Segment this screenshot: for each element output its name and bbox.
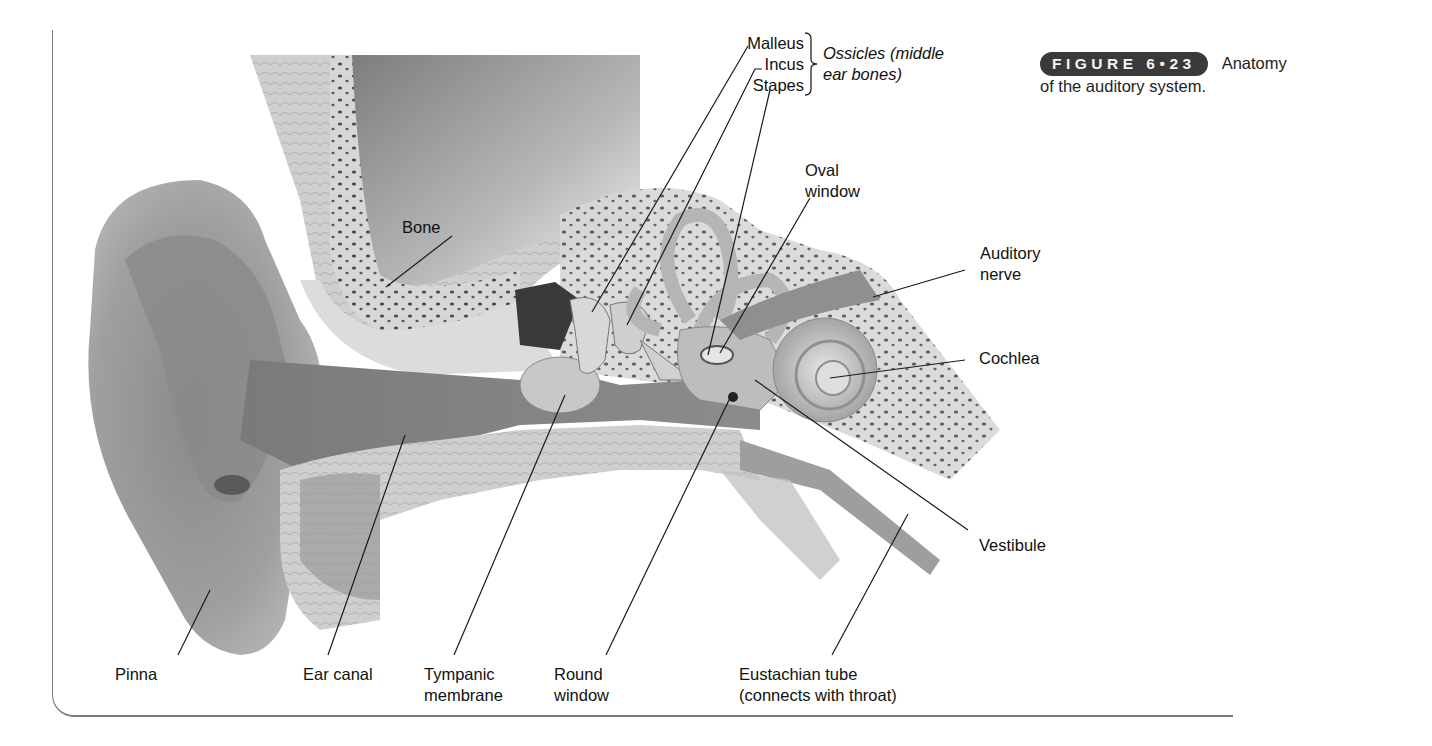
label-pinna: Pinna xyxy=(115,664,157,685)
label-round-window-line1: Round xyxy=(554,664,603,685)
label-auditory-nerve-line2: nerve xyxy=(980,264,1021,285)
cochlea-shape xyxy=(773,318,877,422)
label-eustachian-line1: Eustachian tube xyxy=(739,664,857,685)
label-auditory-nerve-line1: Auditory xyxy=(980,243,1041,264)
label-oval-window-line2: window xyxy=(805,181,860,202)
label-ossicles-line1: Ossicles (middle xyxy=(823,43,944,64)
label-vestibule: Vestibule xyxy=(979,535,1046,556)
caption-lead: Anatomy xyxy=(1222,54,1287,72)
label-malleus: Malleus xyxy=(728,33,804,54)
label-incus: Incus xyxy=(728,54,804,75)
label-round-window-line2: window xyxy=(554,685,609,706)
figure-caption: FIGURE 6•23Anatomy of the auditory syste… xyxy=(1040,52,1420,97)
label-ossicles-line2: ear bones) xyxy=(823,64,902,85)
label-tympanic-line1: Tympanic xyxy=(424,664,495,685)
label-oval-window-line1: Oval xyxy=(805,160,839,181)
oval-window-shape xyxy=(701,346,733,364)
label-bone: Bone xyxy=(402,217,441,238)
label-ear-canal: Ear canal xyxy=(303,664,373,685)
label-stapes: Stapes xyxy=(728,75,804,96)
round-window-shape xyxy=(728,392,738,402)
ossicles-brace xyxy=(803,31,823,97)
label-eustachian-line2: (connects with throat) xyxy=(739,685,897,706)
label-tympanic-line2: membrane xyxy=(424,685,503,706)
figure-number-badge: FIGURE 6•23 xyxy=(1040,52,1208,76)
label-cochlea: Cochlea xyxy=(979,348,1040,369)
ear-anatomy-illustration xyxy=(0,0,1432,746)
caption-rest: of the auditory system. xyxy=(1040,77,1206,95)
